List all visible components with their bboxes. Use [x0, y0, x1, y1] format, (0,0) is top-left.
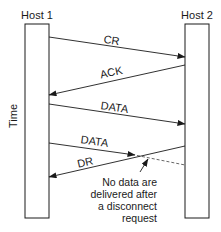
- cr-label: CR: [103, 33, 121, 47]
- host-1-label: Host 1: [21, 9, 53, 21]
- dr-arrow: [49, 146, 185, 177]
- annotation-line-3: a disconnect: [98, 200, 157, 212]
- data-arrow-2-dashed: [137, 156, 185, 166]
- host-2-lifeline: [185, 24, 209, 218]
- annotation-pointer-arrow: [140, 159, 148, 172]
- host-2-label: Host 2: [181, 9, 213, 21]
- data-label-2: DATA: [80, 133, 110, 149]
- annotation-line-1: No data are: [102, 176, 157, 188]
- host-1-lifeline: [25, 24, 49, 218]
- ack-label: ACK: [99, 64, 124, 81]
- data-label-1: DATA: [100, 99, 130, 115]
- annotation-line-4: request: [122, 212, 157, 224]
- annotation-line-2: delivered after: [90, 188, 157, 200]
- sequence-diagram: Host 1 Host 2 Time CR ACK DATA DATA DR N…: [0, 0, 221, 232]
- time-axis-label: Time: [7, 104, 19, 128]
